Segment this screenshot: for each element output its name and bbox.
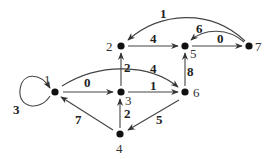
edge-1-6 xyxy=(62,69,178,87)
edges xyxy=(20,18,245,130)
node-7 xyxy=(245,42,252,49)
weight-label-7-5: 6 xyxy=(196,21,203,36)
node-1 xyxy=(51,88,58,95)
node-label-1: 1 xyxy=(44,72,51,87)
edge-4-1 xyxy=(61,97,113,130)
weight-label-6-4: 5 xyxy=(156,112,163,127)
weight-label-6-5: 8 xyxy=(187,64,194,79)
weight-label-3-2: 2 xyxy=(124,60,131,75)
node-label-3: 3 xyxy=(125,93,132,108)
node-4 xyxy=(116,130,123,137)
node-label-6: 6 xyxy=(193,85,200,100)
weight-label-2-5: 4 xyxy=(150,31,157,46)
node-label-7: 7 xyxy=(255,39,262,54)
weight-label-1-3: 0 xyxy=(84,75,91,90)
node-label-4: 4 xyxy=(116,141,123,156)
graph-diagram: 3 0 4 2 1 4 8 0 6 1 7 2 5 1 2 3 4 5 6 7 xyxy=(0,0,277,159)
node-labels: 1 2 3 4 5 6 7 xyxy=(44,39,262,156)
weight-label-7-2: 1 xyxy=(160,6,167,21)
weight-label-1-1: 3 xyxy=(13,102,20,117)
weight-label-4-1: 7 xyxy=(75,112,82,127)
edge-6-4 xyxy=(128,100,179,130)
edge-7-2 xyxy=(128,18,245,41)
node-label-5: 5 xyxy=(190,46,197,61)
node-3 xyxy=(117,88,124,95)
weight-label-4-3: 2 xyxy=(124,106,131,121)
node-label-2: 2 xyxy=(106,39,113,54)
node-6 xyxy=(181,88,188,95)
weight-label-1-6: 4 xyxy=(150,61,157,76)
weight-label-3-6: 1 xyxy=(150,78,157,93)
node-5 xyxy=(181,42,188,49)
node-2 xyxy=(117,42,124,49)
edge-weights: 3 0 4 2 1 4 8 0 6 1 7 2 5 xyxy=(13,6,224,127)
weight-label-5-7: 0 xyxy=(217,31,224,46)
